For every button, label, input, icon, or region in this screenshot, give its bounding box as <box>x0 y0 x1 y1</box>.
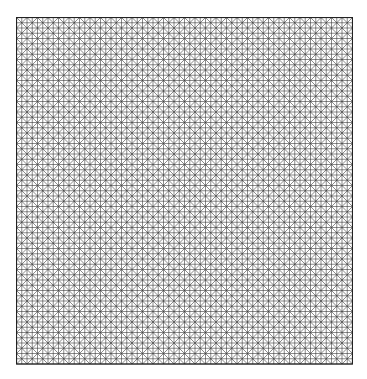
grid-mesh <box>16 17 353 365</box>
grid-lines <box>17 18 353 365</box>
grid-diagram <box>16 17 353 365</box>
